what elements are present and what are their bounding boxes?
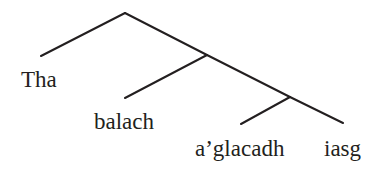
edge-n2-to-iasg <box>290 97 343 123</box>
leaf-label-aglacadh: a’glacadh <box>195 137 284 160</box>
edge-root-to-tha <box>41 13 125 56</box>
leaf-label-balach: balach <box>94 110 154 133</box>
edge-root-to-n1 <box>125 13 207 55</box>
leaf-label-iasg: iasg <box>324 137 361 160</box>
edge-n1-to-balach <box>125 55 207 98</box>
edge-n1-to-n2 <box>207 55 290 97</box>
edge-n2-to-aglacadh <box>241 97 290 124</box>
leaf-label-tha: Tha <box>21 68 57 91</box>
